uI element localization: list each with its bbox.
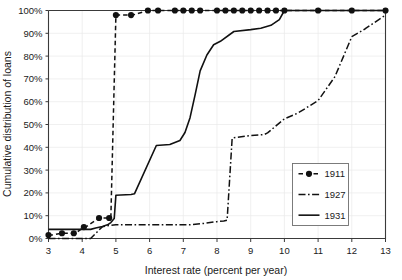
chart-legend[interactable]: 191119271931 <box>293 164 349 226</box>
data-point-marker-1911 <box>113 12 119 18</box>
data-point-marker-1911 <box>239 7 245 13</box>
data-point-marker-1911 <box>155 7 161 13</box>
data-point-marker-1911 <box>256 7 262 13</box>
data-point-marker-1911 <box>180 7 186 13</box>
data-point-marker-1911 <box>197 7 203 13</box>
data-point-marker-1911 <box>96 215 102 221</box>
data-point-marker-1911 <box>45 232 51 238</box>
y-axis-title: Cumulative distribution of loans <box>1 51 13 197</box>
y-axis-tick-label: 40% <box>23 142 43 153</box>
y-axis-tick-label: 90% <box>23 28 43 39</box>
data-point-marker-1911 <box>172 7 178 13</box>
data-point-marker-1911 <box>273 7 279 13</box>
x-axis-tick-label: 5 <box>113 245 118 256</box>
y-axis-tick-label: 60% <box>23 96 43 107</box>
legend-label-1931: 1931 <box>325 210 346 221</box>
y-axis-tick-label: 10% <box>23 210 43 221</box>
data-point-marker-1911 <box>145 7 151 13</box>
x-axis-tick-label: 12 <box>347 245 358 256</box>
x-axis-tick-label: 10 <box>279 245 290 256</box>
y-axis-tick-label: 30% <box>23 165 43 176</box>
data-point-marker-1911 <box>231 7 237 13</box>
data-point-marker-1911 <box>71 230 77 236</box>
data-point-marker-1911 <box>128 12 134 18</box>
y-axis-tick-label: 20% <box>23 187 43 198</box>
x-axis-tick-label: 6 <box>147 245 152 256</box>
y-axis-tick-label: 70% <box>23 73 43 84</box>
data-point-marker-1911 <box>189 7 195 13</box>
x-axis-tick-label: 9 <box>248 245 253 256</box>
x-axis-tick-label: 11 <box>313 245 323 256</box>
y-axis-tick-label: 80% <box>23 51 43 62</box>
legend-marker-1911 <box>306 171 312 177</box>
x-axis-tick-label: 4 <box>80 245 85 256</box>
x-axis-tick-label: 7 <box>181 245 186 256</box>
data-point-marker-1911 <box>222 7 228 13</box>
data-point-marker-1911 <box>214 7 220 13</box>
data-point-marker-1911 <box>106 215 112 221</box>
x-axis-title: Interest rate (percent per year) <box>145 264 287 276</box>
y-axis-tick-label: 100% <box>18 5 43 16</box>
legend-label-1927: 1927 <box>325 189 346 200</box>
legend-label-1911: 1911 <box>325 168 345 179</box>
x-axis-tick-label: 13 <box>380 245 391 256</box>
x-axis-tick-label: 3 <box>46 245 51 256</box>
data-point-marker-1911 <box>264 7 270 13</box>
data-point-marker-1911 <box>59 230 65 236</box>
cumulative-distribution-chart: 0%10%20%30%40%50%60%70%80%90%100% 345678… <box>0 0 402 280</box>
y-axis-tick-label: 0% <box>29 233 43 244</box>
chart-container: 0%10%20%30%40%50%60%70%80%90%100% 345678… <box>0 0 402 280</box>
y-axis-tick-label: 50% <box>23 119 43 130</box>
data-point-marker-1911 <box>248 7 254 13</box>
x-axis-tick-label: 8 <box>214 245 219 256</box>
